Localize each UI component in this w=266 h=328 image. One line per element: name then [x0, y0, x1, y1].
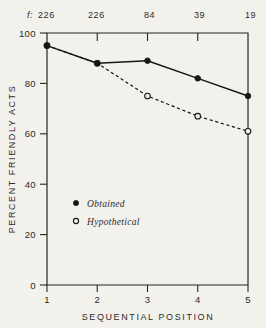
series-obtained — [44, 43, 251, 99]
f-prefix-label: f: — [27, 10, 33, 20]
y-tick-label-60: 60 — [25, 128, 36, 139]
chart-legend: Obtained Hypothetical — [73, 199, 139, 227]
x-tick-label-3: 3 — [145, 294, 151, 305]
x-axis-tick-labels: 1 2 3 4 5 — [44, 294, 251, 305]
y-tick-label-100: 100 — [19, 28, 36, 39]
legend-marker-obtained — [73, 200, 78, 205]
y-axis-title: PERCENT FRIENDLY ACTS — [7, 85, 17, 234]
f-value-1: 226 — [38, 10, 55, 20]
top-frequency-axis: f: 226 226 84 39 19 — [27, 10, 256, 20]
y-tick-label-0: 0 — [30, 280, 36, 291]
y-tick-label-40: 40 — [25, 179, 36, 190]
data-point — [44, 43, 50, 49]
x-tick-label-1: 1 — [44, 294, 50, 305]
data-point — [245, 93, 251, 99]
f-value-3: 84 — [144, 10, 155, 20]
data-point — [94, 60, 100, 66]
legend-marker-hypothetical — [73, 218, 78, 223]
y-axis-tick-labels: 100 80 60 40 20 0 — [19, 28, 36, 291]
legend-label-hypothetical: Hypothetical — [86, 217, 140, 227]
friendly-acts-line-chart: f: 226 226 84 39 19 100 80 60 40 20 0 PE… — [0, 0, 266, 328]
f-value-2: 226 — [88, 10, 105, 20]
x-axis-title: SEQUENTIAL POSITION — [82, 312, 215, 322]
data-point — [145, 58, 151, 64]
data-point — [145, 93, 151, 99]
data-point — [245, 128, 251, 134]
y-tick-label-80: 80 — [25, 78, 36, 89]
y-axis-ticks — [40, 33, 47, 285]
plot-frame — [47, 33, 248, 285]
f-value-4: 39 — [194, 10, 205, 20]
top-axis-ticks — [97, 33, 198, 41]
x-tick-label-2: 2 — [94, 294, 100, 305]
data-point — [195, 113, 201, 119]
x-axis-ticks — [47, 285, 248, 292]
x-tick-label-5: 5 — [245, 294, 251, 305]
f-value-5: 19 — [245, 10, 256, 20]
x-tick-label-4: 4 — [195, 294, 201, 305]
y-tick-label-20: 20 — [25, 229, 36, 240]
legend-label-obtained: Obtained — [87, 199, 125, 209]
series-hypothetical — [44, 43, 251, 134]
data-point — [195, 76, 201, 82]
